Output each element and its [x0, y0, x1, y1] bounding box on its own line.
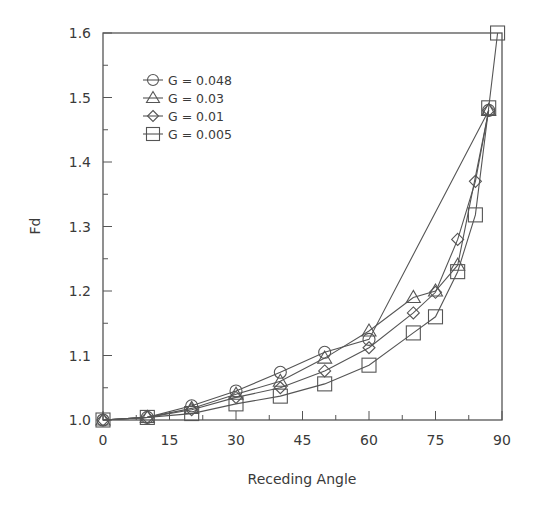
- x-tick-label: 30: [227, 432, 245, 448]
- x-tick-label: 60: [360, 432, 378, 448]
- y-axis-title: Fd: [27, 218, 43, 235]
- series-square: [96, 26, 505, 427]
- legend-label: G = 0.01: [168, 109, 224, 124]
- legend-label: G = 0.03: [168, 91, 224, 106]
- series-triangle: [96, 103, 496, 425]
- y-tick-label: 1.5: [69, 90, 91, 106]
- legend-label: G = 0.005: [168, 127, 232, 142]
- chart: 0153045607590 1.01.11.21.31.41.51.6 G = …: [0, 0, 537, 512]
- legend-item: G = 0.01: [143, 109, 224, 124]
- legend-item: G = 0.03: [143, 91, 224, 106]
- y-tick-label: 1.0: [69, 412, 91, 428]
- y-tick-label: 1.2: [69, 283, 91, 299]
- y-tick-label: 1.1: [69, 348, 91, 364]
- series-circle: [97, 104, 495, 426]
- x-tick-label: 0: [99, 432, 108, 448]
- legend-label: G = 0.048: [168, 73, 232, 88]
- legend-item: G = 0.048: [143, 73, 232, 88]
- legend: G = 0.048G = 0.03G = 0.01G = 0.005: [143, 73, 232, 142]
- x-tick-label: 15: [161, 432, 179, 448]
- series-layer: [96, 26, 505, 427]
- y-tick-label: 1.3: [69, 219, 91, 235]
- series-diamond: [97, 104, 495, 426]
- x-tick-label: 75: [427, 432, 445, 448]
- y-tick-label: 1.4: [69, 154, 91, 170]
- series-line: [103, 110, 489, 420]
- y-tick-label: 1.6: [69, 25, 91, 41]
- triangle-marker-icon: [147, 92, 160, 103]
- y-axis-ticks: 1.01.11.21.31.41.51.6: [69, 25, 112, 428]
- x-axis-title: Receding Angle: [248, 471, 357, 487]
- legend-item: G = 0.005: [143, 127, 232, 142]
- x-tick-label: 90: [493, 432, 511, 448]
- x-tick-label: 45: [294, 432, 312, 448]
- series-line: [103, 33, 498, 420]
